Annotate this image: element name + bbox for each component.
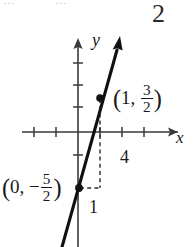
point-marker-on-line bbox=[96, 94, 104, 102]
point-label-x: 1 bbox=[121, 87, 131, 108]
yint-label-fraction: 52 bbox=[41, 171, 53, 203]
fraction-denominator: 2 bbox=[41, 187, 53, 204]
point-label-on-line: (1, 32) bbox=[113, 82, 162, 114]
x-axis-label: x bbox=[176, 129, 184, 146]
yint-label-separator: , bbox=[20, 176, 30, 197]
slope-rise-label: 4 bbox=[120, 148, 129, 166]
fraction-denominator: 2 bbox=[141, 98, 153, 115]
point-label-y-intercept: (0, −52) bbox=[2, 171, 62, 203]
cropped-text-left: ... bbox=[4, 0, 15, 6]
figure-number: 2 bbox=[152, 1, 165, 27]
yint-label-minus-sign: − bbox=[29, 176, 40, 197]
fraction-numerator: 5 bbox=[41, 171, 53, 187]
fraction-numerator: 3 bbox=[141, 82, 153, 98]
point-marker-y-intercept bbox=[75, 184, 83, 192]
cropped-text-right: ... bbox=[56, 0, 67, 6]
y-axis-label: y bbox=[92, 31, 100, 49]
point-label-fraction: 32 bbox=[141, 82, 153, 114]
yint-label-x: 0 bbox=[10, 176, 20, 197]
point-label-close-paren: ) bbox=[154, 87, 162, 111]
slope-run-label: 1 bbox=[89, 198, 98, 216]
line-body bbox=[62, 50, 117, 247]
point-label-separator: , bbox=[131, 87, 141, 108]
yint-label-open-paren: ( bbox=[2, 176, 10, 200]
point-label-open-paren: ( bbox=[113, 87, 121, 111]
line-arrow-icon bbox=[113, 36, 123, 50]
yint-label-close-paren: ) bbox=[53, 176, 61, 200]
